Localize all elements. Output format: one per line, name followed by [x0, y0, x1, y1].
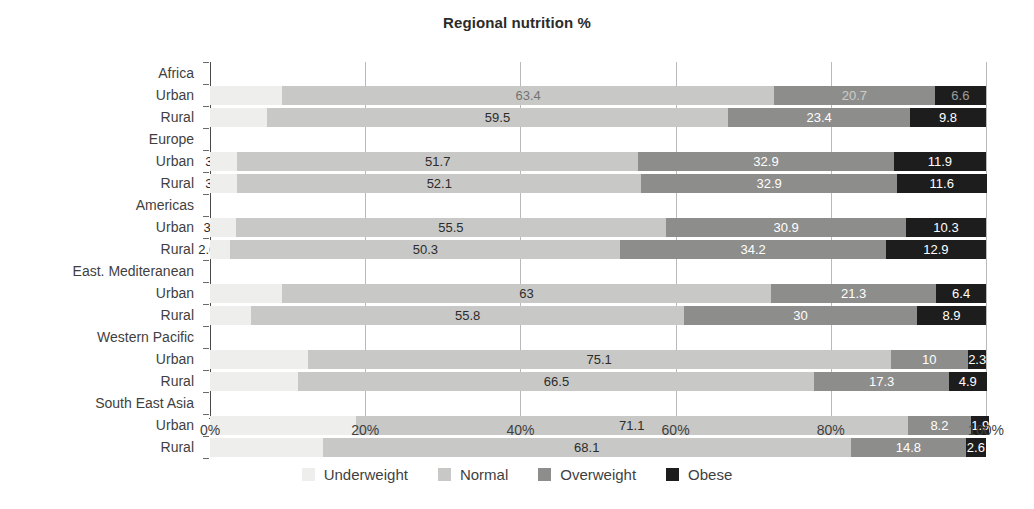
bar-segment-normal: 75.1 — [308, 350, 891, 369]
bar-segment-overweight: 23.4 — [728, 108, 910, 127]
stacked-bar: 55.8308.9 — [210, 306, 986, 325]
y-axis-tick — [203, 370, 209, 371]
bar-value-label: 30 — [793, 309, 807, 322]
bar-segment-overweight: 10 — [891, 350, 969, 369]
bar-value-label: 4.9 — [959, 375, 977, 388]
bar-value-label: 32.9 — [756, 177, 781, 190]
bar-value-label: 34.2 — [741, 243, 766, 256]
stacked-bar: 51.732.911.9 — [210, 152, 986, 171]
bar-value-label: 55.5 — [438, 221, 463, 234]
y-axis-tick — [203, 62, 209, 63]
bar-segment-underweight — [210, 218, 236, 237]
y-axis-row-label: Urban — [156, 348, 194, 370]
bar-row: 2.650.334.212.9 — [210, 238, 986, 260]
bar-segment-obese: 4.9 — [949, 372, 987, 391]
chart-legend: UnderweightNormalOverweightObese — [0, 466, 1034, 483]
y-axis-tick — [203, 172, 209, 173]
bar-value-label: 30.9 — [774, 221, 799, 234]
y-axis-row-label: Rural — [161, 238, 194, 260]
legend-swatch-icon — [302, 468, 315, 481]
bar-value-label: 6.6 — [951, 89, 969, 102]
bar-segment-overweight: 32.9 — [641, 174, 896, 193]
bar-value-label: 23.4 — [806, 111, 831, 124]
bar-value-label: 59.5 — [485, 111, 510, 124]
legend-swatch-icon — [438, 468, 451, 481]
stacked-bar: 66.517.34.9 — [210, 372, 986, 391]
y-axis-row-label: Urban — [156, 282, 194, 304]
y-axis-region-label: Africa — [158, 62, 194, 84]
bar-value-label: 6.4 — [952, 287, 970, 300]
bar-value-label: 75.1 — [586, 353, 611, 366]
y-axis-tick — [203, 304, 209, 305]
x-tick-label: 80% — [817, 422, 845, 438]
bar-segment-obese: 6.4 — [936, 284, 986, 303]
bar-segment-normal: 59.5 — [267, 108, 729, 127]
legend-item-obese[interactable]: Obese — [666, 466, 732, 483]
stacked-bar: 63.420.76.6 — [210, 86, 986, 105]
x-tick-label: 100% — [968, 422, 1004, 438]
bar-value-label: 12.9 — [923, 243, 948, 256]
y-axis-tick — [203, 128, 209, 129]
bar-segment-normal: 55.8 — [251, 306, 684, 325]
y-axis-region-label: Western Pacific — [97, 326, 194, 348]
bar-row: 7.359.523.49.8 — [210, 106, 986, 128]
chart-title: Regional nutrition % — [0, 14, 1034, 31]
bar-value-label: 63.4 — [515, 89, 540, 102]
y-axis-row-label: Urban — [156, 216, 194, 238]
bar-value-label: 63 — [519, 287, 533, 300]
bar-segment-overweight: 34.2 — [620, 240, 885, 259]
plot-area: 9.363.420.76.67.359.523.49.83.551.732.91… — [210, 62, 986, 418]
y-axis-tick — [203, 458, 209, 459]
bar-row: 5.355.8308.9 — [210, 304, 986, 326]
bar-value-label: 10 — [922, 353, 936, 366]
bar-row: 3.551.732.911.9 — [210, 150, 986, 172]
y-axis-tick — [203, 282, 209, 283]
bar-segment-overweight: 20.7 — [774, 86, 935, 105]
y-axis-row-label: Rural — [161, 172, 194, 194]
bar-row: 3.355.530.910.3 — [210, 216, 986, 238]
bar-segment-underweight — [210, 284, 282, 303]
y-axis-tick — [203, 326, 209, 327]
y-axis-labels: AfricaUrbanRuralEuropeUrbanRuralAmericas… — [0, 62, 202, 418]
bar-value-label: 66.5 — [544, 375, 569, 388]
y-axis-tick — [203, 260, 209, 261]
bar-value-label: 20.7 — [842, 89, 867, 102]
bar-segment-underweight — [210, 108, 267, 127]
y-axis-tick — [203, 194, 209, 195]
bar-value-label: 50.3 — [413, 243, 438, 256]
bar-value-label: 10.3 — [933, 221, 958, 234]
x-tick-label: 0% — [200, 422, 220, 438]
y-axis-tick — [203, 106, 209, 107]
bar-segment-obese: 10.3 — [906, 218, 986, 237]
y-axis-row-label: Urban — [156, 84, 194, 106]
y-axis-region-label: Europe — [149, 128, 194, 150]
bar-segment-normal: 66.5 — [298, 372, 814, 391]
legend-item-normal[interactable]: Normal — [438, 466, 508, 483]
stacked-bar: 55.530.910.3 — [210, 218, 986, 237]
y-axis-tick — [203, 150, 209, 151]
y-axis-tick — [203, 348, 209, 349]
y-axis-row-label: Rural — [161, 304, 194, 326]
bar-row: 11.466.517.34.9 — [210, 370, 986, 392]
bar-segment-obese: 11.9 — [894, 152, 986, 171]
y-axis-tick — [203, 414, 209, 415]
bar-value-label: 52.1 — [427, 177, 452, 190]
bar-segment-underweight — [210, 372, 298, 391]
bar-row: 9.36321.36.4 — [210, 282, 986, 304]
bar-segment-obese: 6.6 — [935, 86, 986, 105]
y-axis-row-label: Rural — [161, 370, 194, 392]
stacked-bar: 6321.36.4 — [210, 284, 986, 303]
bar-row: 3.552.132.911.6 — [210, 172, 986, 194]
bar-segment-normal: 51.7 — [237, 152, 638, 171]
bar-segment-underweight — [210, 86, 282, 105]
bar-segment-overweight: 30.9 — [666, 218, 906, 237]
x-axis-labels: 0%20%40%60%80%100% — [0, 422, 1034, 446]
legend-item-overweight[interactable]: Overweight — [538, 466, 636, 483]
bar-value-label: 32.9 — [753, 155, 778, 168]
legend-item-underweight[interactable]: Underweight — [302, 466, 408, 483]
bar-segment-normal: 63 — [282, 284, 771, 303]
stacked-bar: 50.334.212.9 — [210, 240, 986, 259]
legend-label: Normal — [460, 466, 508, 483]
bar-value-label: 11.9 — [928, 155, 952, 168]
y-axis-row-label: Urban — [156, 150, 194, 172]
